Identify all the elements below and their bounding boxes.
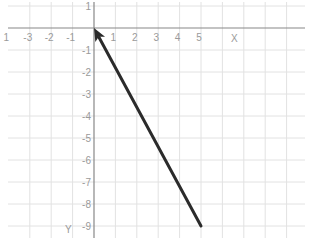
y-tick-label: -6: [82, 155, 91, 166]
x-tick-label: 1: [4, 32, 10, 43]
x-tick-label: -2: [45, 32, 54, 43]
coordinate-plane: 1-3-2-1123451-1-2-3-4-5-6-7-8-9 X Y: [0, 0, 312, 245]
x-tick-label: 5: [196, 32, 202, 43]
x-axis-label: X: [231, 33, 238, 44]
y-tick-label: 1: [85, 1, 91, 12]
vector-series: [94, 28, 201, 226]
y-tick-label: -5: [82, 133, 91, 144]
y-tick-label: -7: [82, 177, 91, 188]
x-tick-label: 4: [175, 32, 181, 43]
x-tick-label: 2: [132, 32, 138, 43]
y-tick-label: -4: [82, 111, 91, 122]
y-tick-label: -2: [82, 67, 91, 78]
y-axis-label: Y: [65, 224, 72, 235]
x-tick-label: -3: [23, 32, 32, 43]
x-tick-label: 1: [111, 32, 117, 43]
vector-line: [99, 38, 201, 226]
y-tick-label: -1: [82, 45, 91, 56]
y-tick-label: -8: [82, 199, 91, 210]
y-tick-label: -3: [82, 89, 91, 100]
x-tick-label: 3: [153, 32, 159, 43]
x-tick-label: -1: [66, 32, 75, 43]
y-tick-label: -9: [82, 221, 91, 232]
